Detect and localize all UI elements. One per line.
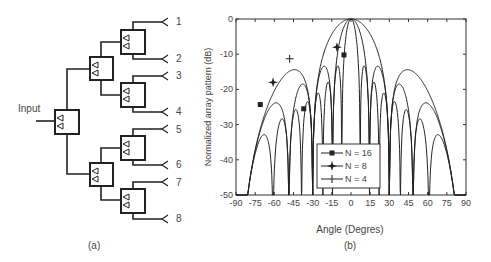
x-tick-label: 60 — [423, 198, 433, 208]
x-tick-label: -75 — [249, 198, 262, 208]
x-axis-label: Angle (Degres) — [316, 224, 383, 235]
input-label: Input — [18, 103, 40, 114]
output-labels: 1 2 3 4 5 6 7 8 — [176, 16, 182, 224]
y-axis-label: Normalized array pattern (dB) — [203, 48, 213, 167]
legend-entry: N = 16 — [345, 148, 372, 158]
svg-text:7: 7 — [176, 177, 182, 188]
x-tick-label: 75 — [442, 198, 452, 208]
y-tick-label: -50 — [220, 190, 233, 200]
x-tick-label: 90 — [461, 198, 471, 208]
y-tick-label: -30 — [220, 120, 233, 130]
x-tick-label: -45 — [287, 198, 300, 208]
y-tick-label: -10 — [220, 49, 233, 59]
caption-b: (b) — [344, 240, 356, 251]
x-tick-label: -15 — [325, 198, 338, 208]
feed-network-diagram — [36, 18, 168, 223]
array-pattern-chart: -90-75-60-45-30-1501530456075900-10-20-3… — [220, 14, 471, 208]
square-marker — [341, 52, 346, 57]
svg-text:6: 6 — [176, 159, 182, 170]
svg-text:4: 4 — [176, 106, 182, 117]
svg-text:8: 8 — [176, 213, 182, 224]
legend-entry: N = 8 — [345, 161, 367, 171]
x-tick-label: 0 — [348, 198, 353, 208]
svg-text:3: 3 — [176, 70, 182, 81]
x-tick-label: 15 — [365, 198, 375, 208]
svg-text:5: 5 — [176, 124, 182, 135]
svg-text:1: 1 — [176, 16, 182, 27]
y-tick-label: -40 — [220, 155, 233, 165]
x-tick-label: 45 — [403, 198, 413, 208]
x-tick-label: -30 — [306, 198, 319, 208]
caption-a: (a) — [88, 240, 100, 251]
plus-marker — [286, 55, 294, 63]
x-tick-label: 30 — [384, 198, 394, 208]
y-tick-label: 0 — [228, 14, 233, 24]
square-marker — [258, 102, 263, 107]
square-marker — [301, 106, 306, 111]
y-tick-label: -20 — [220, 84, 233, 94]
legend-entry: N = 4 — [345, 174, 367, 184]
svg-text:2: 2 — [176, 53, 182, 64]
star-marker — [332, 42, 342, 52]
figure-canvas: Input 1 2 3 4 5 6 7 8 (a) -90-75-60-45-3… — [0, 0, 491, 262]
x-tick-label: -60 — [268, 198, 281, 208]
